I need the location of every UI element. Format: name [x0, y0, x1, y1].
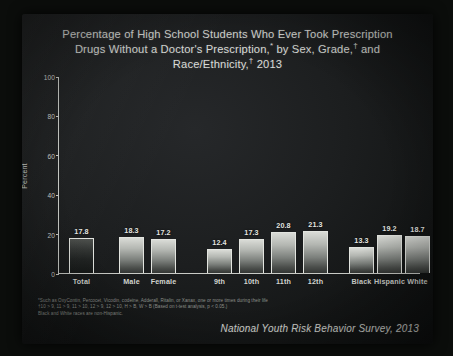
- bar-group-female: 17.2Female: [151, 77, 176, 273]
- y-axis-tick-mark: [56, 274, 59, 275]
- bar-black[interactable]: [349, 247, 374, 273]
- y-axis-tick-40: 40: [31, 192, 55, 199]
- screenshot-frame: Percentage of High School Students Who E…: [0, 0, 453, 356]
- bar-chart-plot-area: Percent 020406080100 17.8Total18.3Male17…: [58, 77, 420, 274]
- chart-title-line-2-part-b: by Sex, Grade,: [273, 43, 353, 55]
- bar-group-total: 17.8Total: [69, 77, 94, 273]
- y-axis-tick-80: 80: [31, 113, 55, 120]
- presentation-slide: Percentage of High School Students Who E…: [22, 14, 433, 344]
- bar-series: 17.8Total18.3Male17.2Female12.49th17.310…: [59, 77, 420, 273]
- bar-total[interactable]: [69, 238, 94, 273]
- y-axis-tick-20: 20: [31, 231, 55, 238]
- chart-title-line-2-part-c: and: [358, 43, 380, 55]
- bar-value-label-black: 13.3: [341, 236, 382, 245]
- bar-group-11th: 20.811th: [271, 77, 296, 273]
- footnote-line-3: Black and White races are non-Hispanic.: [38, 311, 368, 317]
- chart-title-line-2-part-a: Drugs Without a Doctor's Prescription,: [75, 43, 270, 55]
- x-axis-label-female: Female: [137, 277, 190, 286]
- bar-9th[interactable]: [207, 249, 232, 273]
- bar-value-label-12th: 21.3: [295, 220, 336, 229]
- y-axis-tick-0: 0: [31, 271, 55, 278]
- x-axis-label-total: Total: [55, 277, 108, 286]
- x-axis-label-white: White: [391, 277, 433, 286]
- bar-value-label-9th: 12.4: [199, 238, 240, 247]
- bar-value-label-total: 17.8: [61, 227, 102, 236]
- footnotes-block: *Such as OxyContin, Percocet, Vicodin, c…: [38, 298, 368, 317]
- bar-white[interactable]: [405, 236, 430, 273]
- bar-value-label-white: 18.7: [397, 225, 433, 234]
- bar-value-label-female: 17.2: [143, 228, 184, 237]
- y-axis-title: Percent: [22, 163, 28, 189]
- chart-title-line-3-part-a: Race/Ethnicity,: [173, 58, 249, 70]
- y-axis-tick-60: 60: [31, 152, 55, 159]
- bar-group-9th: 12.49th: [207, 77, 232, 273]
- bar-hispanic[interactable]: [377, 235, 402, 273]
- chart-title: Percentage of High School Students Who E…: [34, 27, 421, 73]
- bar-11th[interactable]: [271, 232, 296, 273]
- y-axis-tick-100: 100: [31, 74, 55, 81]
- chart-title-line-3: Race/Ethnicity,† 2013: [34, 57, 421, 72]
- chart-title-line-1: Percentage of High School Students Who E…: [34, 27, 421, 42]
- bar-group-hispanic: 19.2Hispanic: [377, 77, 402, 273]
- bar-group-male: 18.3Male: [119, 77, 144, 273]
- bar-group-12th: 21.312th: [303, 77, 328, 273]
- source-attribution: National Youth Risk Behavior Survey, 201…: [221, 323, 420, 334]
- bar-12th[interactable]: [303, 231, 328, 273]
- bar-group-10th: 17.310th: [239, 77, 264, 273]
- chart-title-line-2: Drugs Without a Doctor's Prescription,* …: [34, 42, 421, 57]
- chart-title-line-3-part-b: 2013: [253, 58, 282, 70]
- bar-male[interactable]: [119, 237, 144, 273]
- bar-group-black: 13.3Black: [349, 77, 374, 273]
- bar-10th[interactable]: [239, 239, 264, 273]
- bar-female[interactable]: [151, 239, 176, 273]
- bar-group-white: 18.7White: [405, 77, 430, 273]
- x-axis-line: [58, 273, 420, 274]
